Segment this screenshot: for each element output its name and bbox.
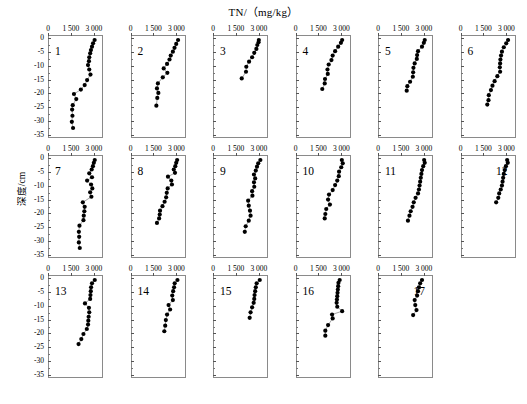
data-point bbox=[340, 309, 344, 313]
data-point bbox=[326, 62, 330, 66]
data-point bbox=[252, 172, 256, 176]
data-point bbox=[255, 165, 259, 169]
data-point bbox=[330, 316, 334, 320]
data-point bbox=[413, 196, 417, 200]
data-point bbox=[88, 190, 92, 194]
data-point bbox=[82, 209, 86, 213]
data-series bbox=[296, 155, 351, 258]
data-point bbox=[81, 200, 85, 204]
data-point bbox=[87, 59, 91, 63]
data-point bbox=[320, 87, 324, 91]
x-tick-label: 1 500 bbox=[310, 144, 327, 153]
x-tick-label: 0 bbox=[294, 144, 298, 153]
data-point bbox=[494, 200, 498, 204]
data-point bbox=[169, 182, 173, 186]
data-point bbox=[490, 84, 494, 88]
x-tick-label: 0 bbox=[211, 264, 215, 273]
x-tick-label: 0 bbox=[376, 144, 380, 153]
y-tick-label: -15 bbox=[34, 76, 44, 84]
data-point bbox=[89, 285, 93, 289]
data-point bbox=[322, 216, 326, 220]
data-point bbox=[500, 180, 504, 184]
data-point bbox=[416, 191, 420, 195]
data-point bbox=[87, 306, 91, 310]
data-point bbox=[329, 312, 333, 316]
y-tick-label: -20 bbox=[34, 89, 44, 97]
data-series bbox=[296, 35, 351, 138]
data-point bbox=[93, 278, 97, 282]
data-point bbox=[498, 57, 502, 61]
panel-10: 01 5003 00010 bbox=[296, 155, 351, 258]
data-point bbox=[172, 171, 176, 175]
panel-6: 01 5003 0006 bbox=[461, 35, 516, 138]
data-point bbox=[495, 74, 499, 78]
data-series bbox=[378, 275, 433, 378]
x-tick-label: 3 000 bbox=[85, 144, 102, 153]
panel-8: 01 5003 0008 bbox=[131, 155, 186, 258]
data-point bbox=[77, 230, 81, 234]
data-point bbox=[420, 168, 424, 172]
data-point bbox=[421, 164, 425, 168]
data-point bbox=[88, 293, 92, 297]
panel-12: 01 5003 00012 bbox=[461, 155, 516, 258]
data-point bbox=[154, 221, 158, 225]
data-point bbox=[88, 72, 92, 76]
data-series bbox=[461, 155, 516, 258]
data-point bbox=[248, 214, 252, 218]
figure-canvas: TN/（mg/kg） 深度/cm 01 5003 0000-5-10-15-20… bbox=[0, 0, 527, 404]
x-tick-label: 3 000 bbox=[415, 24, 432, 33]
data-point bbox=[255, 43, 259, 47]
data-point bbox=[411, 313, 415, 317]
data-series bbox=[213, 275, 268, 378]
data-point bbox=[90, 281, 94, 285]
data-point bbox=[339, 165, 343, 169]
data-point bbox=[172, 46, 176, 50]
panel-7: 01 5003 0000-5-10-15-20-25-30-357 bbox=[48, 155, 103, 258]
x-tick-label: 0 bbox=[46, 144, 50, 153]
y-tick-label: -25 bbox=[34, 103, 44, 111]
data-point bbox=[163, 318, 167, 322]
data-point bbox=[164, 312, 168, 316]
x-tick-label: 0 bbox=[211, 144, 215, 153]
y-tick-label: -20 bbox=[34, 329, 44, 337]
panel-9: 01 5003 0009 bbox=[213, 155, 268, 258]
x-tick-label: 3 000 bbox=[168, 264, 185, 273]
data-series bbox=[213, 155, 268, 258]
x-tick-label: 0 bbox=[46, 264, 50, 273]
y-tick-label: -30 bbox=[34, 237, 44, 245]
data-point bbox=[86, 63, 90, 67]
panel-5: 01 5003 0005 bbox=[378, 35, 433, 138]
data-point bbox=[156, 91, 160, 95]
data-series bbox=[48, 275, 103, 378]
data-point bbox=[330, 188, 334, 192]
data-point bbox=[247, 219, 251, 223]
y-tick-label: -10 bbox=[34, 62, 44, 70]
panel-1: 01 5003 0000-5-10-15-20-25-30-351 bbox=[48, 35, 103, 138]
x-tick-label: 3 000 bbox=[250, 24, 267, 33]
panel-4: 01 5003 0004 bbox=[296, 35, 351, 138]
x-tick-label: 3 000 bbox=[333, 144, 350, 153]
data-point bbox=[81, 218, 85, 222]
data-point bbox=[87, 315, 91, 319]
data-point bbox=[254, 47, 258, 51]
x-tick-label: 3 000 bbox=[85, 264, 102, 273]
x-tick-label: 0 bbox=[459, 144, 463, 153]
data-point bbox=[244, 70, 248, 74]
data-point bbox=[157, 212, 161, 216]
data-point bbox=[171, 285, 175, 289]
x-tick-label: 3 000 bbox=[498, 144, 515, 153]
data-point bbox=[420, 45, 424, 49]
data-point bbox=[163, 324, 167, 328]
data-point bbox=[415, 53, 419, 57]
data-point bbox=[90, 167, 94, 171]
data-point bbox=[175, 38, 179, 42]
x-axis-ticks: 01 5003 000 bbox=[200, 264, 281, 274]
chart-title: TN/（mg/kg） bbox=[0, 3, 527, 19]
data-point bbox=[334, 301, 338, 305]
x-tick-label: 3 000 bbox=[168, 24, 185, 33]
data-point bbox=[413, 298, 417, 302]
y-tick-label: -30 bbox=[34, 357, 44, 365]
data-point bbox=[411, 70, 415, 74]
data-point bbox=[155, 96, 159, 100]
y-axis-title: 深度/cm bbox=[14, 159, 28, 219]
